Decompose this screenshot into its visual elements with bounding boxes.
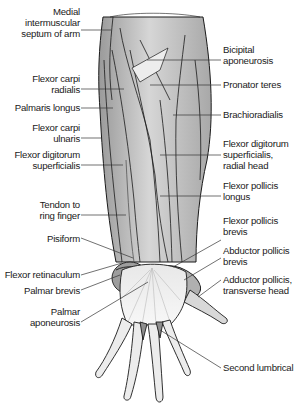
label-palmar-aponeurosis: Palmar aponeurosis [30, 306, 80, 328]
label-line: Bicipital [223, 44, 273, 55]
label-line: Flexor digitorum [223, 138, 289, 149]
label-flexor-pollicis-brevis: Flexor pollicis brevis [223, 215, 278, 237]
label-line: Pronator teres [223, 79, 281, 90]
label-line: Palmar [30, 306, 80, 317]
label-flexor-retinaculum: Flexor retinaculum [5, 269, 80, 280]
label-line: radialis [32, 84, 80, 95]
label-flexor-carpi-ulnaris: Flexor carpi ulnaris [32, 122, 80, 144]
label-palmaris-longus: Palmaris longus [15, 102, 80, 113]
label-brachioradialis: Brachioradialis [223, 109, 283, 120]
label-line: superficialis [14, 160, 80, 171]
label-flexor-pollicis-longus: Flexor pollicis longus [223, 180, 278, 202]
label-line: ulnaris [32, 133, 80, 144]
label-line: aponeurosis [223, 55, 273, 66]
label-line: brevis [223, 256, 289, 267]
label-flexor-carpi-radialis: Flexor carpi radialis [32, 73, 80, 95]
label-line: Abductor pollicis [223, 245, 289, 256]
label-tendon-to-ring-finger: Tendon to ring finger [40, 199, 80, 221]
label-fds-radial-head: Flexor digitorum superficialis, radial h… [223, 138, 289, 171]
label-bicipital-aponeurosis: Bicipital aponeurosis [223, 44, 273, 66]
label-line: Brachioradialis [223, 109, 283, 120]
label-line: Pisiform [47, 233, 80, 244]
label-line: aponeurosis [30, 317, 80, 328]
label-line: Flexor retinaculum [5, 269, 80, 280]
label-line: intermuscular [21, 17, 80, 28]
label-line: longus [223, 191, 278, 202]
label-line: septum of arm [21, 28, 80, 39]
label-pronator-teres: Pronator teres [223, 79, 281, 90]
label-line: Second lumbrical [223, 362, 293, 373]
label-abductor-pollicis-brevis: Abductor pollicis brevis [223, 245, 289, 267]
label-line: Medial [21, 6, 80, 17]
label-palmar-brevis: Palmar brevis [24, 285, 80, 296]
label-line: Flexor pollicis [223, 180, 278, 191]
label-line: Tendon to [40, 199, 80, 210]
label-medial-intermuscular-septum: Medial intermuscular septum of arm [21, 6, 80, 39]
label-line: Palmaris longus [15, 102, 80, 113]
label-line: radial head [223, 160, 289, 171]
label-line: Flexor digitorum [14, 149, 80, 160]
label-second-lumbrical: Second lumbrical [223, 362, 293, 373]
label-adductor-pollicis-transverse: Adductor pollicis, transverse head [223, 274, 292, 296]
label-line: Adductor pollicis, [223, 274, 292, 285]
label-line: Flexor carpi [32, 122, 80, 133]
label-line: Flexor pollicis [223, 215, 278, 226]
label-flexor-digitorum-superficialis: Flexor digitorum superficialis [14, 149, 80, 171]
label-line: transverse head [223, 285, 292, 296]
label-line: Palmar brevis [24, 285, 80, 296]
forearm [99, 17, 211, 262]
label-line: superficialis, [223, 149, 289, 160]
label-pisiform: Pisiform [47, 233, 80, 244]
label-line: Flexor carpi [32, 73, 80, 84]
label-line: ring finger [40, 210, 80, 221]
label-line: brevis [223, 226, 278, 237]
